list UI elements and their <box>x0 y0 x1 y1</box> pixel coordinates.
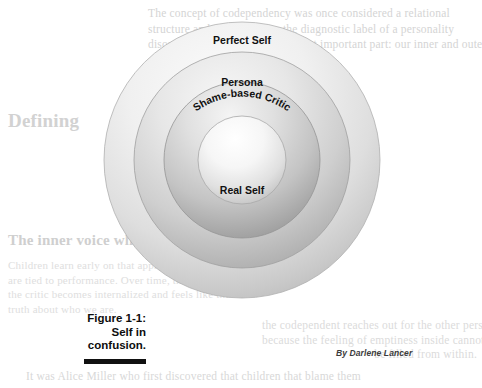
figure-caption-line-3: confusion. <box>8 339 146 353</box>
figure-caption-line-2: Self in <box>8 326 146 340</box>
ring-label-real-self: Real Self <box>220 184 265 196</box>
figure-byline: By Darlene Lancer <box>336 348 412 358</box>
ring-label-persona: Persona <box>221 76 263 88</box>
ring-label-perfect-self: Perfect Self <box>213 34 271 46</box>
figure-caption-line-1: Figure 1-1: <box>8 312 146 326</box>
figure-caption-rule <box>84 359 146 364</box>
figure-caption: Figure 1-1: Self in confusion. <box>8 312 146 364</box>
